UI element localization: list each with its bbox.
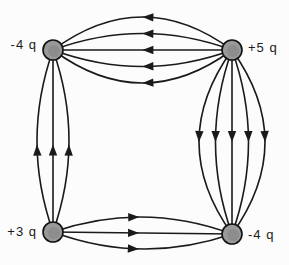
charge-label-bottom-left: +3 q [0,224,37,239]
field-line [53,34,232,51]
field-line-arrowhead [49,145,57,156]
field-line-arrowhead [142,78,153,86]
field-line-arrowhead [195,131,203,142]
field-line [53,232,232,249]
field-line-arrowhead [128,244,139,252]
field-line [53,50,69,232]
field-line-arrowhead [142,46,153,54]
charge-label-top-left: -4 q [0,37,37,52]
field-line-diagram: -4 q +5 q +3 q -4 q [0,0,289,265]
field-line-arrowhead [142,13,153,21]
charge-shading-bottom-left [48,227,60,239]
field-line [53,217,232,234]
charge-shading-top-right [227,45,239,57]
field-line-arrowhead [142,29,153,37]
charge-shading-bottom-right [227,229,239,241]
charge-shading-top-left [48,45,60,57]
diagram-canvas [0,0,289,265]
field-line-arrowhead [128,229,139,237]
field-line-arrowhead [260,131,268,142]
field-line [53,50,232,67]
field-line [37,50,53,232]
field-line-arrowhead [244,131,252,142]
field-line-arrowhead [64,145,72,156]
field-line-arrowhead [142,62,153,70]
field-line [216,50,233,234]
field-line-arrowhead [128,213,139,221]
charge-label-top-right: +5 q [248,40,278,55]
charge-label-bottom-right: -4 q [248,227,274,242]
field-line [232,50,249,234]
field-line-arrowhead [228,131,236,142]
field-line-arrowhead [211,131,219,142]
field-line-arrowhead [33,145,41,156]
field-line [53,232,232,234]
